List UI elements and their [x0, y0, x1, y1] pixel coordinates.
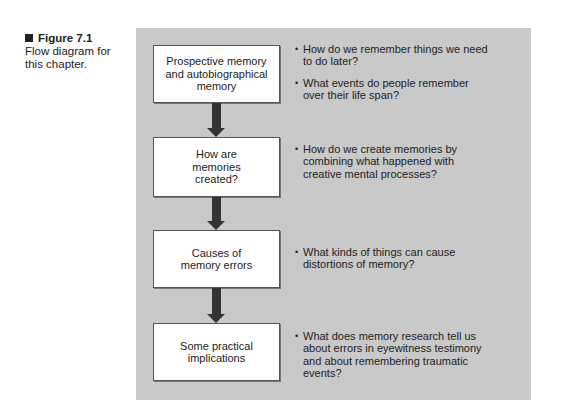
flow-box-memories-created: How are memories created?: [153, 137, 280, 197]
down-arrow-icon: [212, 288, 221, 323]
flow-diagram-panel: Prospective memory and autobiographical …: [136, 28, 531, 400]
figure-description: Flow diagram for this chapter.: [25, 45, 125, 71]
figure-number: Figure 7.1: [38, 32, 92, 44]
flow-box-label: How are memories created?: [172, 148, 262, 186]
question-item: How do we create memories by combining w…: [295, 143, 473, 180]
question-item: How do we remember things we need to do …: [295, 43, 493, 68]
flow-box-label: Some practical implications: [177, 340, 257, 365]
question-list-4: What does memory research tell us about …: [295, 330, 483, 388]
question-list-1: How do we remember things we need to do …: [295, 43, 493, 110]
question-item: What kinds of things can cause distortio…: [295, 246, 473, 271]
figure-caption: Figure 7.1 Flow diagram for this chapter…: [25, 32, 125, 71]
question-item: What events do people remember over thei…: [295, 77, 493, 102]
flow-box-memory-errors: Causes of memory errors: [153, 230, 280, 288]
flow-box-prospective-memory: Prospective memory and autobiographical …: [153, 45, 280, 103]
question-item: What does memory research tell us about …: [295, 330, 483, 379]
down-arrow-icon: [212, 103, 221, 137]
flow-box-practical-implications: Some practical implications: [153, 323, 280, 381]
flow-box-label: Causes of memory errors: [177, 247, 257, 272]
down-arrow-icon: [212, 197, 221, 230]
square-bullet-icon: [25, 34, 33, 42]
question-list-3: What kinds of things can cause distortio…: [295, 246, 473, 280]
figure-label: Figure 7.1: [25, 32, 125, 45]
flow-box-label: Prospective memory and autobiographical …: [162, 55, 272, 93]
question-list-2: How do we create memories by combining w…: [295, 143, 473, 189]
